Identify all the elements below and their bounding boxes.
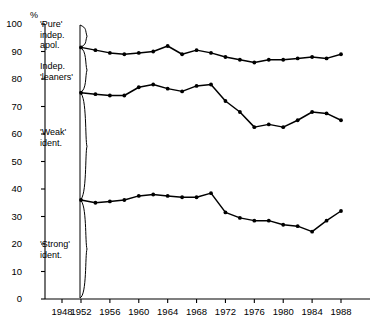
data-point bbox=[122, 198, 126, 202]
data-point bbox=[180, 89, 184, 93]
data-point bbox=[195, 195, 199, 199]
data-point bbox=[137, 194, 141, 198]
data-point bbox=[224, 99, 228, 103]
series-line-cumulative-middle bbox=[81, 85, 341, 128]
data-point bbox=[339, 209, 343, 213]
band-brace-1 bbox=[80, 47, 87, 92]
band-brace-3 bbox=[80, 200, 87, 298]
plot-area bbox=[0, 0, 387, 328]
data-point bbox=[122, 52, 126, 56]
data-point bbox=[166, 44, 170, 48]
data-point bbox=[267, 58, 271, 62]
data-point bbox=[296, 224, 300, 228]
data-point bbox=[180, 195, 184, 199]
data-point bbox=[267, 219, 271, 223]
band-brace-0 bbox=[80, 25, 87, 47]
data-point bbox=[339, 52, 343, 56]
data-point bbox=[252, 125, 256, 129]
band-brace-2 bbox=[80, 93, 87, 200]
data-point bbox=[310, 230, 314, 234]
data-point bbox=[137, 51, 141, 55]
data-point bbox=[108, 199, 112, 203]
data-point bbox=[339, 118, 343, 122]
data-point bbox=[252, 219, 256, 223]
data-point bbox=[238, 110, 242, 114]
data-point bbox=[296, 56, 300, 60]
data-point bbox=[209, 83, 213, 87]
data-point bbox=[310, 55, 314, 59]
series-line-cumulative-lower bbox=[81, 193, 341, 232]
data-point bbox=[267, 122, 271, 126]
data-point bbox=[79, 91, 83, 95]
data-point bbox=[151, 50, 155, 54]
data-point bbox=[238, 58, 242, 62]
data-point bbox=[296, 118, 300, 122]
data-point bbox=[281, 223, 285, 227]
data-point bbox=[151, 83, 155, 87]
data-point bbox=[252, 61, 256, 65]
data-point bbox=[122, 94, 126, 98]
data-point bbox=[79, 198, 83, 202]
data-point bbox=[238, 216, 242, 220]
data-point bbox=[137, 85, 141, 89]
data-point bbox=[79, 45, 83, 49]
data-point bbox=[108, 94, 112, 98]
data-point bbox=[195, 84, 199, 88]
data-point bbox=[195, 48, 199, 52]
data-point bbox=[224, 210, 228, 214]
data-point bbox=[108, 51, 112, 55]
data-point bbox=[224, 55, 228, 59]
data-point bbox=[166, 87, 170, 91]
data-point bbox=[209, 51, 213, 55]
data-point bbox=[281, 58, 285, 62]
data-point bbox=[166, 194, 170, 198]
data-point bbox=[180, 52, 184, 56]
data-point bbox=[310, 110, 314, 114]
data-point bbox=[325, 111, 329, 115]
data-point bbox=[281, 125, 285, 129]
data-point bbox=[94, 92, 98, 96]
data-point bbox=[325, 56, 329, 60]
chart-container: % 0102030405060708090100 194819521956196… bbox=[0, 0, 387, 328]
data-point bbox=[325, 219, 329, 223]
data-point bbox=[94, 201, 98, 205]
data-point bbox=[151, 193, 155, 197]
data-point bbox=[94, 48, 98, 52]
data-point bbox=[209, 191, 213, 195]
